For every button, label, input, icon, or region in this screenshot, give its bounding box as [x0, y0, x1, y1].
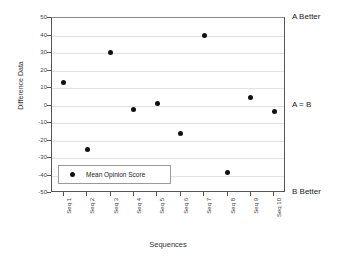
y-axis-tick-label: 40 — [40, 32, 47, 38]
x-axis-tick-mark — [110, 192, 111, 196]
x-axis-tick-mark — [273, 192, 274, 196]
axis-annotation: B Better — [292, 188, 321, 196]
gridline — [52, 88, 284, 89]
data-point — [108, 50, 113, 55]
y-axis-tick-label: 50 — [40, 14, 47, 20]
x-axis-tick-mark — [156, 192, 157, 196]
x-axis-tick-label: Seq 10 — [276, 198, 282, 217]
y-axis-tick-mark — [47, 175, 51, 176]
legend-marker-icon — [70, 172, 75, 177]
data-point — [131, 107, 136, 112]
x-axis-tick-mark — [203, 192, 204, 196]
gridline — [52, 53, 284, 54]
y-axis-tick-label: 10 — [40, 84, 47, 90]
x-axis-tick-mark — [180, 192, 181, 196]
x-axis-tick-label: Seq 3 — [113, 198, 119, 214]
y-axis-tick-mark — [47, 122, 51, 123]
y-axis-tick-label: -10 — [38, 119, 47, 125]
gridline — [52, 158, 284, 159]
x-axis-tick-label: Seq 2 — [89, 198, 95, 214]
y-axis-tick-mark — [47, 52, 51, 53]
y-axis-tick-label: -30 — [38, 154, 47, 160]
gridline — [52, 36, 284, 37]
x-axis-tick-label: Seq 6 — [183, 198, 189, 214]
y-axis-tick-label: -20 — [38, 137, 47, 143]
x-axis-tick-label: Seq 9 — [253, 198, 259, 214]
data-point — [248, 95, 253, 100]
gridline — [52, 71, 284, 72]
data-point — [61, 80, 66, 85]
x-axis-tick-label: Seq 8 — [230, 198, 236, 214]
y-axis-tick-mark — [47, 105, 51, 106]
chart-figure: Difference Data 50403020100-10-20-30-40-… — [0, 0, 351, 261]
x-axis-tick-label: Seq 5 — [159, 198, 165, 214]
y-axis-title: Difference Data — [17, 26, 24, 146]
y-axis-tick-mark — [47, 35, 51, 36]
y-axis-tick-mark — [47, 192, 51, 193]
x-axis-tick-mark — [63, 192, 64, 196]
y-axis-tick-label: -50 — [38, 189, 47, 195]
data-point — [85, 147, 90, 152]
data-point — [272, 109, 277, 114]
y-axis-tick-mark — [47, 87, 51, 88]
data-point — [202, 33, 207, 38]
y-axis-tick-labels: 50403020100-10-20-30-40-50 — [24, 17, 47, 192]
gridline — [52, 106, 284, 107]
chart-legend: Mean Opinion Score — [58, 165, 171, 184]
y-axis-tick-mark — [47, 70, 51, 71]
y-axis-tick-mark — [47, 140, 51, 141]
gridline — [52, 123, 284, 124]
axis-annotation: A Better — [292, 13, 320, 21]
y-axis-tick-label: 30 — [40, 49, 47, 55]
x-axis-tick-mark — [227, 192, 228, 196]
x-axis-tick-label: Seq 4 — [136, 198, 142, 214]
data-point — [178, 131, 183, 136]
x-axis-tick-mark — [86, 192, 87, 196]
x-axis-tick-mark — [133, 192, 134, 196]
x-axis-title: Sequences — [0, 240, 336, 249]
axis-annotation: A = B — [292, 101, 311, 109]
y-axis-tick-mark — [47, 157, 51, 158]
y-axis-tick-label: 20 — [40, 67, 47, 73]
y-axis-tick-mark — [47, 17, 51, 18]
y-axis-tick-label: -40 — [38, 172, 47, 178]
legend-entry-label: Mean Opinion Score — [86, 171, 145, 178]
x-axis-tick-label: Seq 7 — [206, 198, 212, 214]
gridline — [52, 141, 284, 142]
x-axis-tick-mark — [250, 192, 251, 196]
x-axis-tick-label: Seq 1 — [66, 198, 72, 214]
